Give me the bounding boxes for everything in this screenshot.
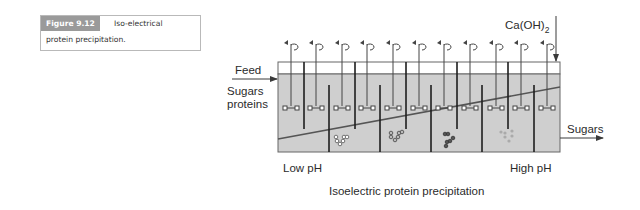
diagram-title: Isoelectric protein precipitation [329, 185, 484, 197]
precipitation-diagram: Feed Sugars proteins Ca(OH)2 Sugars Low … [0, 0, 640, 210]
sugars-output-label: Sugars [567, 123, 604, 135]
feed-label: Feed [235, 64, 261, 76]
feed-content-line2: proteins [227, 98, 268, 110]
low-ph-label: Low pH [283, 162, 322, 174]
high-ph-label: High pH [510, 162, 552, 174]
reagent-label: Ca(OH)2 [505, 19, 550, 35]
feed-content-line1: Sugars [227, 85, 264, 97]
